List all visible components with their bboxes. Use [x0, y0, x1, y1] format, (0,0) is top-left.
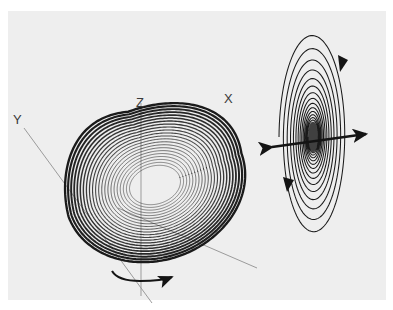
spiral-arrow-upper-right: [338, 55, 348, 72]
roessler-attractor: [65, 103, 245, 262]
attractor-loop: [126, 162, 183, 207]
z-axis-label: Z: [136, 96, 144, 109]
spiral-focus: [279, 36, 345, 232]
attractor-loop: [123, 159, 186, 210]
attractor-rotation-arrow: [112, 271, 172, 281]
y-axis-label: Y: [13, 113, 22, 126]
x-axis-label: X: [224, 92, 233, 105]
figure-root: Y Z X: [0, 0, 393, 310]
spiral-focus-point: [308, 122, 318, 152]
figure-canvas: [0, 0, 393, 310]
attractor-loop: [130, 165, 181, 204]
